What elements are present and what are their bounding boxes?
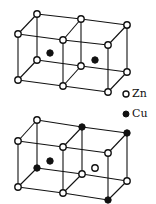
zn-atom xyxy=(60,83,66,89)
zn-atom xyxy=(105,89,111,95)
legend-cu-label: Cu xyxy=(132,108,148,119)
cu-atom xyxy=(124,130,130,136)
zn-atom xyxy=(34,57,40,63)
zn-atom xyxy=(60,190,66,196)
crystal-lattice-diagram xyxy=(0,0,156,204)
top-lattice xyxy=(15,11,130,95)
zn-atom xyxy=(15,138,21,144)
zn-atom xyxy=(78,63,84,69)
legend-zn-label: Zn xyxy=(132,88,147,99)
zn-atom xyxy=(34,117,40,123)
cu-atom xyxy=(105,197,111,203)
zn-atom xyxy=(15,184,21,190)
legend-cu-marker-icon xyxy=(123,111,129,117)
zn-atom xyxy=(124,22,130,28)
cu-atom xyxy=(47,158,53,164)
cu-atom xyxy=(92,57,98,63)
zn-atom xyxy=(92,165,98,171)
zn-atom xyxy=(15,77,21,83)
bottom-lattice xyxy=(15,117,130,203)
zn-atom xyxy=(79,171,85,177)
zn-atom xyxy=(105,150,111,156)
zn-atom xyxy=(78,16,84,22)
cu-atom xyxy=(34,165,40,171)
zn-atom xyxy=(60,37,66,43)
zn-atom xyxy=(105,42,111,48)
cu-atom xyxy=(47,50,53,56)
cu-atom xyxy=(79,124,85,130)
legend-zn-marker-icon xyxy=(123,91,129,97)
zn-atom xyxy=(15,31,21,37)
zn-atom xyxy=(124,178,130,184)
zn-atom xyxy=(124,69,130,75)
zn-atom xyxy=(60,144,66,150)
zn-atom xyxy=(34,11,40,17)
